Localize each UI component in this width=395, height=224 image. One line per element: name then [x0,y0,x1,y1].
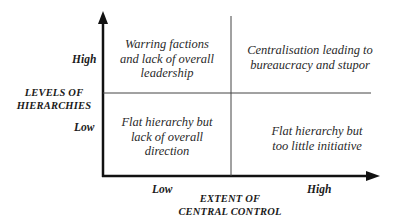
y-axis-title: LEVELS OF HIERARCHIES [14,86,94,112]
x-axis-title: EXTENT OF CENTRAL CONTROL [160,192,300,218]
y-axis-title-line1: LEVELS OF [14,86,94,99]
quadrant-bottom-right: Flat hierarchy but too little initiative [262,124,372,153]
quadrant-text-line: Flat hierarchy but [106,115,228,130]
quadrant-top-right: Centralisation leading to bureaucracy an… [240,43,380,72]
quadrant-bottom-left: Flat hierarchy but lack of overall direc… [106,115,228,159]
diagram-lines [0,0,395,224]
x-axis-high-label: High [307,183,331,195]
y-axis-low-label: Low [74,121,94,133]
quadrant-text-line: Warring factions [106,37,228,52]
quadrant-text-line: Flat hierarchy but [262,124,372,139]
x-axis-title-line2: CENTRAL CONTROL [160,205,300,218]
x-axis-arrowhead [366,171,380,181]
quadrant-text-line: Centralisation leading to [240,43,380,58]
quadrant-text-line: bureaucracy and stupor [240,58,380,73]
y-axis-arrowhead [98,11,108,24]
quadrant-text-line: leadership [106,66,228,81]
quadrant-text-line: too little initiative [262,139,372,154]
quadrant-top-left: Warring factions and lack of overall lea… [106,37,228,81]
quadrant-text-line: and lack of overall [106,52,228,67]
y-axis-high-label: High [72,53,96,65]
quadrant-text-line: direction [106,144,228,159]
quadrant-text-line: lack of overall [106,130,228,145]
y-axis-title-line2: HIERARCHIES [14,99,94,112]
x-axis-title-line1: EXTENT OF [160,192,300,205]
